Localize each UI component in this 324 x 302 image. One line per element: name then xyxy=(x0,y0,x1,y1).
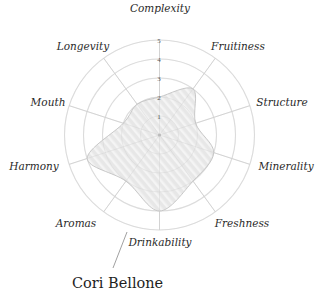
axis-label-mouth: Mouth xyxy=(30,96,66,108)
tick-label-5: 5 xyxy=(157,37,161,45)
axis-label-minerality: Minerality xyxy=(257,160,314,172)
wine-name-label: Cori Bellone xyxy=(72,275,163,291)
tick-label-3: 3 xyxy=(157,75,161,83)
axis-label-complexity: Complexity xyxy=(130,2,191,14)
center-dot xyxy=(158,133,161,136)
name-leader-line xyxy=(113,232,127,268)
tick-label-1: 1 xyxy=(157,113,161,121)
axis-label-structure: Structure xyxy=(256,96,307,108)
grid-spokes-overlay xyxy=(65,40,255,230)
axis-label-aromas: Aromas xyxy=(55,217,97,229)
radar-chart: 12345 ComplexityFruitinessStructureMiner… xyxy=(0,0,324,302)
axis-label-freshness: Freshness xyxy=(214,217,270,229)
axis-label-longevity: Longevity xyxy=(56,40,111,52)
axis-label-fruitiness: Fruitiness xyxy=(210,40,265,52)
tick-label-2: 2 xyxy=(157,94,161,102)
axis-label-harmony: Harmony xyxy=(8,160,59,172)
axis-label-drinkability: Drinkability xyxy=(127,236,192,248)
tick-label-4: 4 xyxy=(157,56,161,64)
